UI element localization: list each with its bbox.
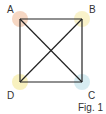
vertex-label-c: C xyxy=(88,91,95,101)
vertex-label-a: A xyxy=(7,5,14,15)
figure-caption: Fig. 1 xyxy=(78,103,103,113)
figure-canvas: A B C D Fig. 1 xyxy=(0,0,106,114)
vertex-label-d: D xyxy=(7,91,14,101)
vertex-label-b: B xyxy=(89,5,96,15)
